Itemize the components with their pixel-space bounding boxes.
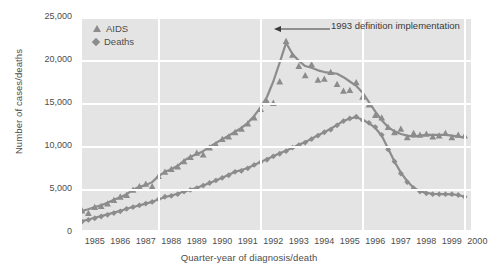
y-axis-tick-label: 20,000 (0, 54, 72, 64)
data-series-layer (82, 17, 471, 232)
y-axis-tick-label: 10,000 (0, 140, 72, 150)
data-point-diamond (149, 199, 155, 205)
data-point-triangle (410, 130, 417, 136)
series-deaths (82, 114, 468, 225)
x-axis-tick-label: 1987 (132, 236, 160, 246)
data-point-diamond (443, 191, 449, 197)
gridline-horizontal (82, 230, 471, 232)
data-point-triangle (423, 131, 430, 137)
x-axis-tick-label: 1989 (183, 236, 211, 246)
plot-area (82, 17, 471, 232)
data-point-triangle (289, 51, 296, 57)
legend-label-deaths: Deaths (104, 35, 134, 48)
data-point-diamond (207, 180, 213, 186)
chart-legend: AIDS Deaths (93, 22, 134, 48)
y-axis-tick-label: 0 (0, 226, 72, 236)
x-axis-tick-label: 1995 (336, 236, 364, 246)
data-point-triangle (455, 131, 462, 137)
data-point-diamond (430, 191, 436, 197)
legend-item-deaths: Deaths (93, 35, 134, 48)
data-point-triangle (315, 76, 322, 82)
data-point-triangle (283, 38, 290, 44)
data-point-diamond (347, 116, 353, 122)
data-point-diamond (213, 178, 219, 184)
x-axis-tick-label: 1998 (412, 236, 440, 246)
y-axis-tick-label: 15,000 (0, 97, 72, 107)
gridline-horizontal (82, 60, 471, 62)
data-point-diamond (455, 192, 461, 198)
diamond-marker-icon (92, 37, 100, 45)
data-point-triangle (346, 87, 353, 93)
x-axis-tick-label: 1990 (208, 236, 236, 246)
gridline-horizontal (82, 17, 471, 19)
data-point-diamond (124, 206, 130, 212)
x-axis-tick-label: 1994 (310, 236, 338, 246)
x-axis-tick-label: 1992 (259, 236, 287, 246)
gridline-vertical (464, 17, 466, 232)
data-point-diamond (136, 202, 142, 208)
data-point-triangle (397, 125, 404, 131)
x-axis-tick-label: 1986 (106, 236, 134, 246)
gridline-vertical (260, 17, 262, 232)
triangle-marker-icon (93, 25, 101, 32)
annotation-arrow-icon (274, 24, 332, 34)
annotation-label-1993-definition: 1993 definition implementation (331, 20, 460, 31)
x-axis-tick-label: 1988 (157, 236, 185, 246)
data-point-diamond (436, 191, 442, 197)
data-point-diamond (130, 204, 136, 210)
data-point-triangle (442, 130, 449, 136)
x-axis-tick-label: 1997 (387, 236, 415, 246)
x-axis-title: Quarter-year of diagnosis/death (0, 252, 498, 263)
data-point-triangle (353, 79, 360, 85)
x-axis-tick-label: 1991 (234, 236, 262, 246)
legend-label-aids: AIDS (106, 22, 128, 35)
y-axis-tick-label: 5,000 (0, 183, 72, 193)
x-axis-tick-label: 1985 (81, 236, 109, 246)
gridline-vertical (158, 17, 160, 232)
x-axis-tick-label: 1999 (438, 236, 466, 246)
data-point-triangle (340, 88, 347, 94)
data-point-triangle (321, 76, 328, 82)
data-point-triangle (334, 81, 341, 87)
x-axis-tick-label: 1993 (285, 236, 313, 246)
gridline-horizontal (82, 103, 471, 105)
x-axis: 1985198619871988198919901991199219931994… (0, 236, 498, 250)
x-axis-tick-label: 1996 (361, 236, 389, 246)
y-axis-tick-label: 25,000 (0, 11, 72, 21)
data-point-diamond (449, 191, 455, 197)
data-point-triangle (276, 78, 283, 84)
y-axis: Number of cases/deaths 05,00010,00015,00… (0, 0, 82, 276)
data-point-diamond (200, 183, 206, 189)
x-axis-tick-label: 2000 (463, 236, 491, 246)
chart-figure: Number of cases/deaths 05,00010,00015,00… (0, 0, 498, 276)
data-point-triangle (302, 72, 309, 78)
gridline-vertical (362, 17, 364, 232)
legend-item-aids: AIDS (93, 22, 134, 35)
gridline-horizontal (82, 189, 471, 191)
gridline-horizontal (82, 146, 471, 148)
data-point-diamond (143, 201, 149, 207)
